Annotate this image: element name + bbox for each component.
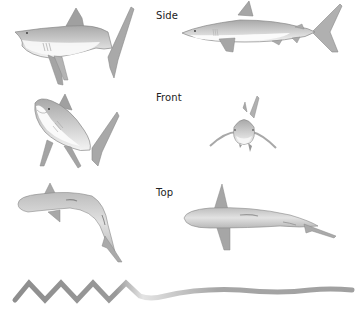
shark-front-threequarter-icon	[35, 94, 119, 168]
motion-path-wave	[15, 283, 352, 300]
shark-top-straight-icon	[184, 184, 336, 250]
shark-motion-diagram	[0, 0, 357, 316]
shark-front-headon-icon	[210, 96, 276, 152]
shark-top-curved-icon	[18, 183, 122, 262]
shark-side-straight-icon	[182, 1, 342, 52]
shark-side-bent-icon	[15, 7, 134, 85]
